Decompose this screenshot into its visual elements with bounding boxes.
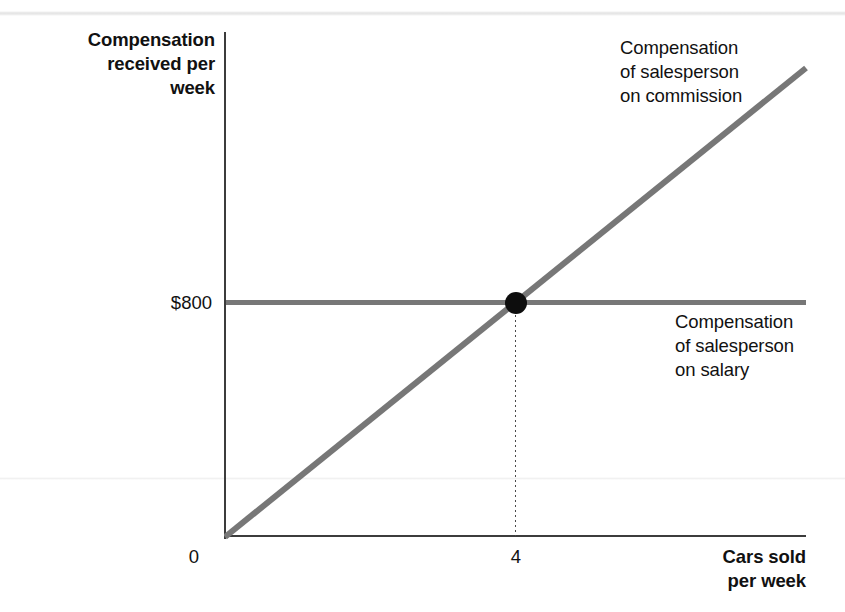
intersection-dropline (515, 305, 516, 536)
intersection-point-marker (505, 292, 527, 314)
x-axis-tick-label-origin: 0 (182, 545, 206, 569)
y-axis-line (224, 32, 226, 539)
x-axis-tick-label-4: 4 (504, 545, 528, 569)
y-axis-title: Compensation received per week (55, 28, 215, 100)
x-axis-title: Cars sold per week (646, 545, 806, 593)
annotation-commission: Compensation of salesperson on commissio… (620, 36, 742, 108)
scan-artifact-top (0, 11, 845, 16)
chart-figure: Compensation received per week Cars sold… (0, 0, 845, 612)
annotation-salary: Compensation of salesperson on salary (675, 310, 794, 382)
y-axis-tick-label-800: $800 (120, 291, 212, 315)
scan-artifact-middle (0, 477, 845, 480)
